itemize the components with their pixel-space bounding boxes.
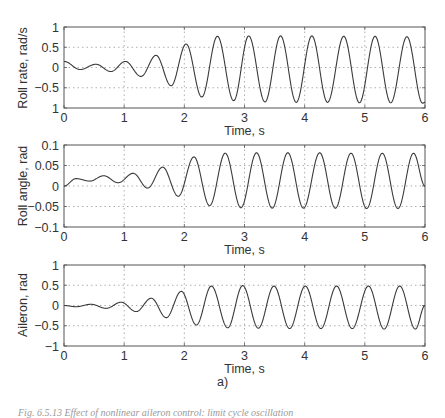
x-tick-label: 0 — [61, 230, 68, 244]
y-axis-label: Aileron, rad — [16, 273, 30, 337]
x-tick-label: 6 — [422, 349, 429, 363]
y-tick-label: 1 — [52, 259, 59, 273]
y-tick-label: 0 — [52, 61, 59, 75]
x-tick-label: 1 — [121, 349, 128, 363]
x-tick-label: 5 — [361, 230, 368, 244]
x-axis-label: Time, s — [224, 124, 265, 138]
y-tick-label: 0.05 — [35, 159, 59, 173]
x-tick-label: 4 — [301, 111, 308, 125]
x-axis-label: Time, s — [224, 243, 265, 257]
x-tick-label: 3 — [241, 230, 248, 244]
subfigure-label: a) — [0, 375, 445, 389]
x-tick-label: 4 — [301, 230, 308, 244]
x-tick-label: 3 — [241, 111, 248, 125]
x-axis-label: Time, s — [224, 362, 265, 376]
x-tick-label: 0 — [61, 349, 68, 363]
y-axis-label: Roll rate, rad/s — [16, 27, 30, 108]
y-tick-label: 0.5 — [42, 279, 59, 293]
y-tick-label: 0.1 — [42, 139, 59, 153]
series-line — [64, 36, 425, 103]
x-tick-label: 6 — [422, 111, 429, 125]
x-tick-label: 4 — [301, 349, 308, 363]
x-tick-label: 1 — [121, 230, 128, 244]
x-tick-label: 0 — [61, 111, 68, 125]
y-tick-label: −0.1 — [34, 221, 59, 235]
series-line — [64, 153, 425, 209]
roll-angle-plot: 01234560.10.050−0.05−0.1Time, sRoll angl… — [16, 139, 429, 258]
x-tick-label: 2 — [181, 230, 188, 244]
y-tick-label: −1 — [45, 340, 59, 354]
x-tick-label: 1 — [121, 111, 128, 125]
roll-rate-plot: 012345610.50−0.51Time, sRoll rate, rad/s — [16, 21, 429, 139]
x-tick-label: 3 — [241, 349, 248, 363]
x-tick-label: 2 — [181, 111, 188, 125]
y-tick-label: −0.5 — [34, 319, 59, 333]
y-axis-label: Roll angle, rad — [16, 146, 30, 227]
figure-caption: Fig. 6.5.13 Effect of nonlinear aileron … — [18, 407, 293, 418]
x-tick-label: 5 — [361, 349, 368, 363]
y-tick-label: 1 — [52, 21, 59, 35]
y-tick-label: 0 — [52, 299, 59, 313]
y-tick-label: −0.05 — [27, 200, 59, 214]
y-tick-label: 0 — [52, 180, 59, 194]
x-tick-label: 6 — [422, 230, 429, 244]
y-tick-label: 1 — [52, 102, 59, 116]
y-tick-label: −0.5 — [34, 81, 59, 95]
x-tick-label: 5 — [361, 111, 368, 125]
x-tick-label: 2 — [181, 349, 188, 363]
aileron-plot: 012345610.50−0.5−1Time, sAileron, rad — [16, 259, 429, 377]
y-tick-label: 0.5 — [42, 41, 59, 55]
